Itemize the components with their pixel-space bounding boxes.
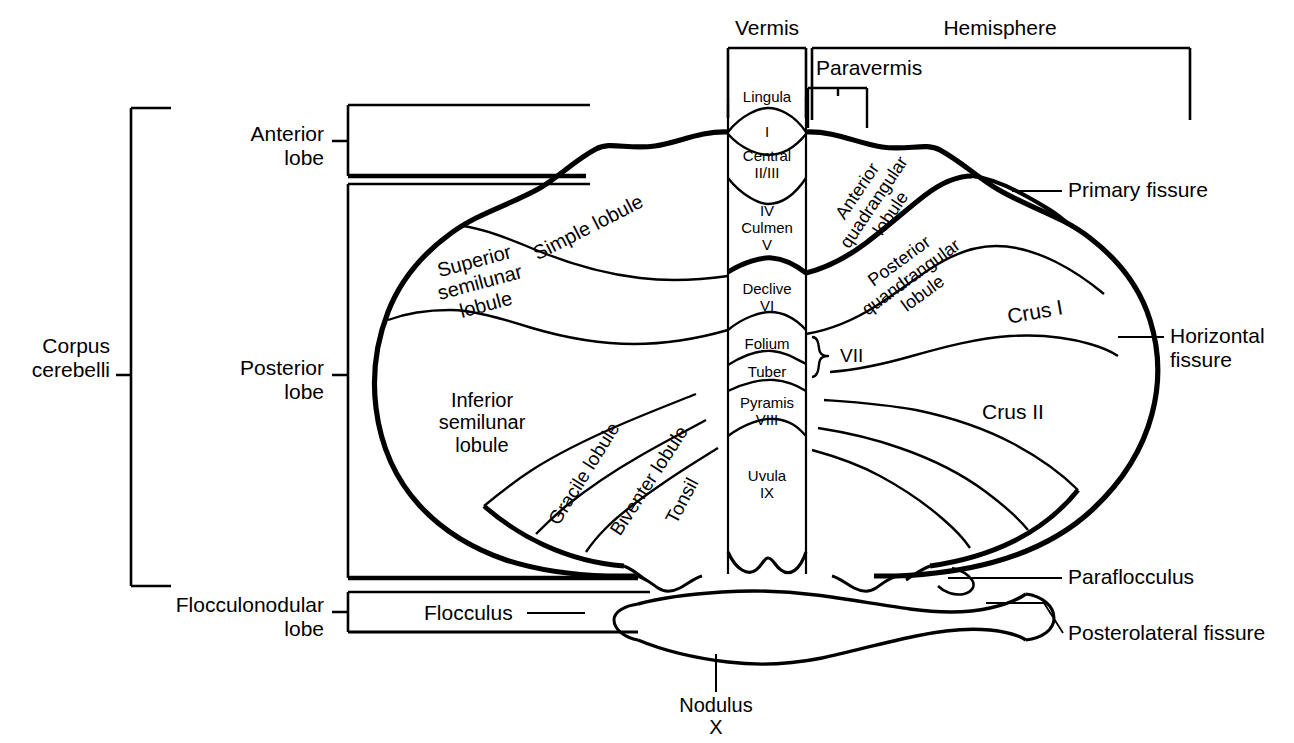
flocculonodular-band — [638, 591, 1026, 664]
flocculus-left-cap — [614, 604, 638, 640]
uvula-bottom — [728, 552, 806, 573]
vermis-pyramis-label: Pyramis VIII — [724, 395, 810, 429]
anterior-lobe-bracket — [332, 105, 590, 176]
vermis-culmen-label: IV Culmen V — [724, 203, 810, 253]
posterolateral-fissure-label: Posterolateral fissure — [1068, 621, 1265, 645]
paravermis-bracket — [808, 88, 867, 128]
cerebellum-outer-contour — [375, 132, 1158, 576]
flocculonodular-lobe-label: Flocculonodular lobe — [106, 593, 324, 640]
vermis-folium-label: Folium — [724, 336, 810, 353]
crus-ii-label: Crus II — [955, 400, 1071, 424]
hemisphere-label: Hemisphere — [890, 16, 1110, 40]
corpus-cerebelli-label: Corpus cerebelli — [0, 334, 110, 381]
vermis-lobule-i-label: I — [728, 124, 806, 141]
corpus-cerebelli-bracket — [116, 108, 171, 586]
vermis-central-label: Central II/III — [724, 148, 810, 182]
nodulus-label: Nodulus X — [654, 694, 778, 739]
vermis-vii-bracket — [812, 337, 828, 377]
inferior-semilunar-lobule-label: Inferior semilunar lobule — [402, 389, 562, 456]
flocculus-label: Flocculus — [424, 601, 513, 625]
vermis-uvula-label: Uvula IX — [724, 468, 810, 502]
flocculus-right-cap — [1026, 594, 1054, 640]
horizontal-fissure-label: Horizontal fissure — [1170, 324, 1265, 371]
primary-fissure-vermis — [728, 258, 806, 273]
posterior-lobe-label: Posterior lobe — [146, 356, 324, 403]
anterior-lobe-label: Anterior lobe — [146, 122, 324, 169]
vermis-tuber-label: Tuber — [724, 364, 810, 381]
primary-fissure-label: Primary fissure — [1068, 178, 1208, 202]
vermis-lingula-label: Lingula — [728, 89, 806, 106]
paravermis-label: Paravermis — [816, 56, 922, 80]
vermis-declive-label: Declive VI — [724, 281, 810, 315]
cerebellum-diagram: Vermis Hemisphere Paravermis Corpus cere… — [0, 0, 1294, 743]
paraflocculus-label: Paraflocculus — [1068, 565, 1194, 589]
vermis-label: Vermis — [708, 16, 826, 40]
